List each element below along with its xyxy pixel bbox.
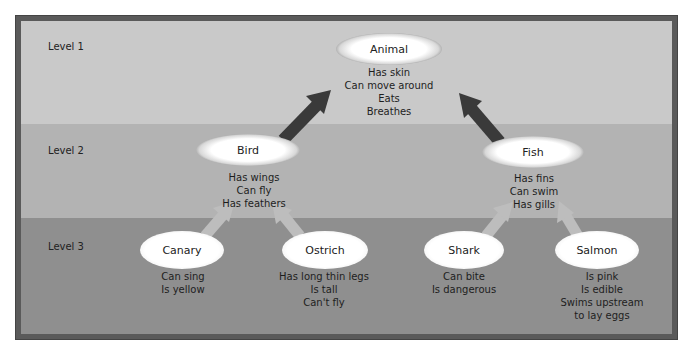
attribute: Is yellow xyxy=(161,283,204,296)
attribute: Can fly xyxy=(222,184,286,197)
attribute: Is dangerous xyxy=(432,283,496,296)
attribute: Is tall xyxy=(279,283,369,296)
node-canary-attributes: Can sing Is yellow xyxy=(161,270,204,296)
node-bird-label: Bird xyxy=(237,144,259,157)
level-3-label: Level 3 xyxy=(48,241,84,252)
node-bird: Bird xyxy=(196,134,300,166)
attribute: Can bite xyxy=(432,270,496,283)
attribute: Can't fly xyxy=(279,296,369,309)
attribute: Has feathers xyxy=(222,197,286,210)
attribute: Has skin xyxy=(345,66,434,79)
attribute: Can sing xyxy=(161,270,204,283)
node-fish-attributes: Has fins Can swim Has gills xyxy=(510,172,559,211)
node-shark-label: Shark xyxy=(448,244,480,257)
node-shark-attributes: Can bite Is dangerous xyxy=(432,270,496,296)
node-salmon-label: Salmon xyxy=(576,244,617,257)
node-fish: Fish xyxy=(482,136,584,168)
arrow-salmon-to-fish xyxy=(557,201,578,236)
node-fish-label: Fish xyxy=(522,146,543,159)
node-canary-label: Canary xyxy=(162,244,201,257)
attribute: Has fins xyxy=(510,172,559,185)
attribute: Is edible xyxy=(560,283,643,296)
node-animal-attributes: Has skin Can move around Eats Breathes xyxy=(345,66,434,118)
attribute: Can move around xyxy=(345,79,434,92)
node-bird-attributes: Has wings Can fly Has feathers xyxy=(222,171,286,210)
node-canary: Canary xyxy=(140,231,224,269)
attribute: Has wings xyxy=(222,171,286,184)
attribute: Swims upstream xyxy=(560,296,643,309)
arrow-fish-to-animal xyxy=(459,93,500,142)
attribute: Eats xyxy=(345,92,434,105)
node-ostrich-label: Ostrich xyxy=(305,244,344,257)
arrow-bird-to-animal xyxy=(283,90,331,140)
attribute: Has gills xyxy=(510,198,559,211)
level-1-label: Level 1 xyxy=(48,41,84,52)
node-ostrich-attributes: Has long thin legs Is tall Can't fly xyxy=(279,270,369,309)
attribute: Breathes xyxy=(345,105,434,118)
node-salmon-attributes: Is pink Is edible Swims upstream to lay … xyxy=(560,270,643,322)
level-2-label: Level 2 xyxy=(48,145,84,156)
node-animal: Animal xyxy=(336,33,442,65)
attribute: Is pink xyxy=(560,270,643,283)
node-shark: Shark xyxy=(424,231,504,269)
node-animal-label: Animal xyxy=(370,43,408,56)
node-ostrich: Ostrich xyxy=(282,231,368,269)
attribute: to lay eggs xyxy=(560,309,643,322)
attribute: Has long thin legs xyxy=(279,270,369,283)
attribute: Can swim xyxy=(510,185,559,198)
node-salmon: Salmon xyxy=(555,231,639,269)
